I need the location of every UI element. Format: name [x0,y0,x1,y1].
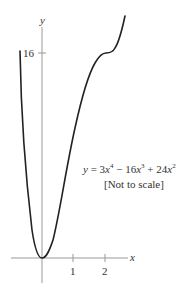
x-tick-label-1: 1 [70,265,76,277]
eq-part: = 3 [88,163,105,175]
function-curve [20,16,125,258]
x-axis-label: x [130,251,135,263]
eq-part: − 16 [114,163,137,175]
x-tick-label-2: 2 [102,265,108,277]
function-graph [0,0,190,297]
y-axis-label: y [40,14,45,26]
y-tick-label-16: 16 [23,47,34,59]
equation-label: y = 3x4 − 16x3 + 24x2 [83,163,176,176]
eq-exp: 2 [172,162,176,170]
eq-part: + 24 [145,163,168,175]
not-to-scale-note: [Not to scale] [104,178,164,190]
